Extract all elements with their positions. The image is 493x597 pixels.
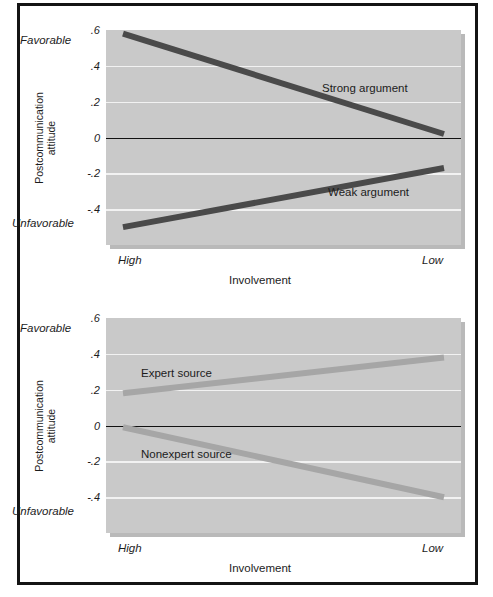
ylabel-favorable-top: Favorable [20, 34, 66, 46]
figure-border: Strong argument Weak argument .6 .4 .2 0… [17, 3, 478, 585]
ytick-0-top: 0 [68, 132, 100, 144]
ytick-0-bottom: 0 [68, 420, 100, 432]
xtick-high-bottom: High [118, 542, 142, 554]
ytick-0.2-bottom: .2 [68, 384, 100, 396]
series-label-expert-source: Expert source [141, 367, 212, 379]
plot-area-top: Strong argument Weak argument [106, 30, 461, 245]
ylabel-unfavorable-bottom: Unfavorable [12, 505, 66, 517]
yaxis-title-line1-bottom: Postcommunication [33, 380, 45, 472]
yaxis-title-line2-top: attitude [45, 121, 57, 155]
ytick-neg0.4-top: -.4 [68, 203, 100, 215]
series-label-weak-argument: Weak argument [328, 186, 409, 198]
xaxis-title-top: Involvement [200, 274, 320, 286]
ytick-0.6-top: .6 [68, 24, 100, 36]
ytick-neg0.4-bottom: -.4 [68, 491, 100, 503]
series-label-strong-argument: Strong argument [322, 82, 408, 94]
xtick-high-top: High [118, 254, 142, 266]
series-lines-bottom [106, 318, 461, 533]
ytick-neg0.2-bottom: -.2 [68, 455, 100, 467]
chart-source-expertise: Expert source Nonexpert source .6 .4 .2 … [20, 298, 481, 588]
yaxis-title-line1-top: Postcommunication [33, 92, 45, 184]
xtick-low-bottom: Low [422, 542, 443, 554]
ytick-neg0.2-top: -.2 [68, 167, 100, 179]
yaxis-title-bottom: Postcommunication attitude [33, 366, 57, 486]
ytick-0.2-top: .2 [68, 96, 100, 108]
xtick-low-top: Low [422, 254, 443, 266]
ylabel-unfavorable-top: Unfavorable [12, 217, 66, 229]
ylabel-favorable-bottom: Favorable [20, 322, 66, 334]
series-lines-top [106, 30, 461, 245]
yaxis-title-line2-bottom: attitude [45, 409, 57, 443]
figure-page: Strong argument Weak argument .6 .4 .2 0… [0, 0, 493, 597]
chart-argument-quality: Strong argument Weak argument .6 .4 .2 0… [20, 6, 481, 298]
plot-area-bottom: Expert source Nonexpert source [106, 318, 461, 533]
ytick-0.4-top: .4 [68, 60, 100, 72]
yaxis-title-top: Postcommunication attitude [33, 78, 57, 198]
line-nonexpert-source [123, 427, 444, 497]
ytick-0.6-bottom: .6 [68, 312, 100, 324]
ytick-0.4-bottom: .4 [68, 348, 100, 360]
xaxis-title-bottom: Involvement [200, 562, 320, 574]
series-label-nonexpert-source: Nonexpert source [141, 448, 232, 460]
